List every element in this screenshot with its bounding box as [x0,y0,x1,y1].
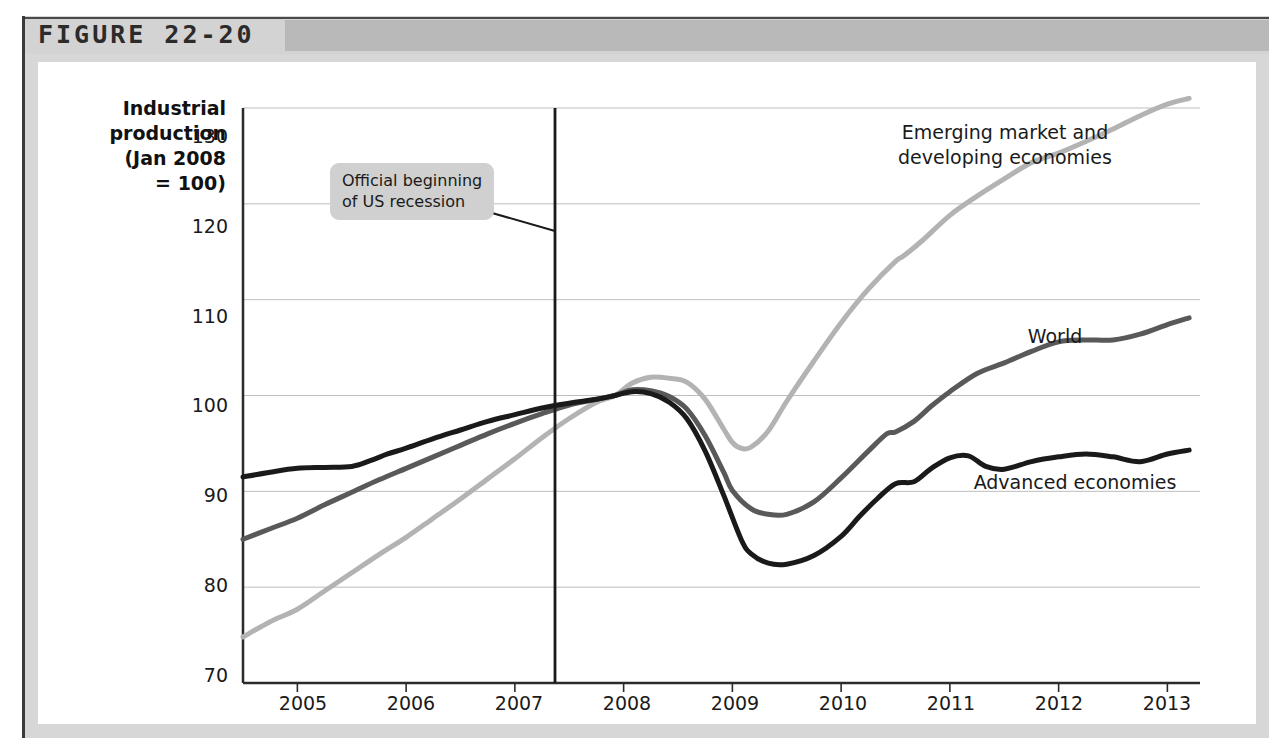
figure-number-label: FIGURE 22-20 [38,19,255,50]
figure-container: FIGURE 22-20 Industrial production (Jan … [0,0,1286,751]
y-tick-label-70: 70 [172,664,228,686]
series-label-advanced: Advanced economies [960,470,1190,495]
x-tick-label-2006: 2006 [366,692,456,714]
x-tick-label-2009: 2009 [690,692,780,714]
x-tick-label-2008: 2008 [582,692,672,714]
y-tick-label-120: 120 [172,215,228,237]
y-tick-label-110: 110 [172,305,228,327]
x-tick-label-2007: 2007 [474,692,564,714]
y-tick-label-90: 90 [172,484,228,506]
x-tick-label-2013: 2013 [1122,692,1212,714]
y-tick-label-100: 100 [172,394,228,416]
series-label-emerging: Emerging market and developing economies [880,120,1130,170]
y-tick-label-130: 130 [172,125,228,147]
x-tick-label-2011: 2011 [906,692,996,714]
figure-header-accent-band [285,20,1269,51]
y-tick-label-80: 80 [172,574,228,596]
x-tick-label-2005: 2005 [258,692,348,714]
recession-callout: Official beginning of US recession [330,163,494,220]
x-tick-label-2010: 2010 [798,692,888,714]
x-tick-label-2012: 2012 [1014,692,1104,714]
series-label-world: World [1000,324,1110,349]
